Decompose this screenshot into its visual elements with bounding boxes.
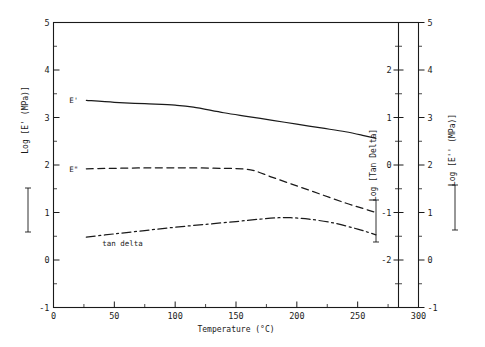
y-tick-label: 1 [44, 208, 49, 218]
y-tick-label: 5 [428, 18, 433, 28]
y-tick-label: 0 [428, 255, 433, 265]
curve-annotation: tan delta [102, 239, 143, 248]
left-axis-title: Log [E' (MPa)] [21, 86, 30, 153]
plot-frame [54, 23, 419, 308]
y-tick-label: 2 [44, 160, 49, 170]
series-curve-tan-delta [86, 218, 376, 238]
x-tick-label: 50 [109, 311, 119, 321]
x-tick-label: 300 [411, 311, 426, 321]
y-tick-label: 2 [386, 65, 391, 75]
dma-chart-figure: 050100150200250300Temperature (°C)-10123… [0, 0, 485, 347]
series-curve-e- [86, 100, 376, 138]
y-tick-label: 1 [428, 208, 433, 218]
right-inner-axis-bracket [373, 200, 379, 242]
x-tick-label: 100 [167, 311, 182, 321]
y-tick-label: 0 [44, 255, 49, 265]
x-tick-label: 0 [51, 311, 56, 321]
y-tick-label: 4 [44, 65, 49, 75]
x-tick-label: 250 [350, 311, 365, 321]
x-axis-title: Temperature (°C) [197, 325, 274, 334]
right-outer-axis-bracket [452, 185, 458, 230]
x-tick-label: 150 [228, 311, 243, 321]
curve-annotation: E' [69, 96, 78, 105]
chart-canvas: 050100150200250300Temperature (°C)-10123… [0, 0, 485, 347]
y-tick-label: -1 [428, 303, 438, 313]
y-tick-label: 4 [428, 65, 433, 75]
y-tick-label: 3 [428, 113, 433, 123]
right-inner-axis-title: Log [Tan Delta] [369, 129, 378, 201]
y-tick-label: 5 [44, 18, 49, 28]
y-tick-label: -1 [381, 208, 391, 218]
y-tick-label: 3 [44, 113, 49, 123]
left-axis-bracket [25, 188, 31, 232]
y-tick-label: 2 [428, 160, 433, 170]
series-curve-e- [86, 168, 376, 213]
y-tick-label: -2 [381, 255, 391, 265]
right-outer-axis-title: Log [E'' (MPa)] [448, 114, 457, 186]
y-tick-label: 0 [386, 160, 391, 170]
y-tick-label: 1 [386, 113, 391, 123]
x-tick-label: 200 [289, 311, 304, 321]
y-tick-label: -1 [39, 303, 49, 313]
curve-annotation: E" [69, 165, 78, 174]
